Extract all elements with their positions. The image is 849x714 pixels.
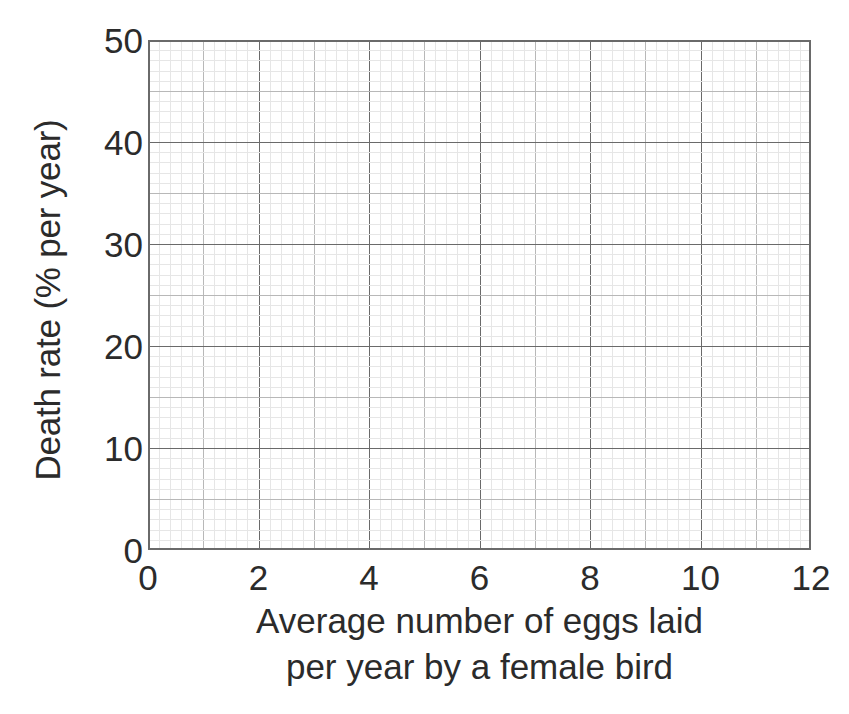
y-tick-label-40: 40: [104, 125, 143, 160]
x-tick-label-6: 6: [470, 560, 489, 595]
y-tick-label-20: 20: [104, 329, 143, 364]
y-tick-label-30: 30: [104, 227, 143, 262]
y-tick-label-0: 0: [124, 533, 143, 568]
graph-paper-grid: [148, 40, 811, 550]
x-axis-title: Average number of eggs laid per year by …: [148, 598, 811, 690]
x-tick-label-12: 12: [792, 560, 831, 595]
x-tick-label-0: 0: [138, 560, 157, 595]
x-axis-title-line-1: Average number of eggs laid: [148, 598, 811, 644]
y-axis-title: Death rate (% per year): [28, 119, 68, 480]
y-tick-label-10: 10: [104, 431, 143, 466]
y-axis-title-wrapper: Death rate (% per year): [0, 0, 96, 600]
y-tick-label-50: 50: [104, 23, 143, 58]
x-axis-title-line-2: per year by a female bird: [148, 644, 811, 690]
chart-figure: Death rate (% per year) 0102030405002468…: [0, 0, 849, 714]
x-tick-label-10: 10: [681, 560, 720, 595]
x-tick-label-4: 4: [359, 560, 378, 595]
plot-area: [148, 40, 811, 550]
x-tick-label-8: 8: [580, 560, 599, 595]
x-tick-label-2: 2: [249, 560, 268, 595]
